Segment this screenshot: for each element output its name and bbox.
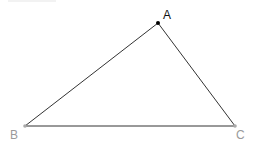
point-b[interactable] (23, 124, 27, 128)
label-c: C (236, 128, 245, 142)
edge-ac (158, 23, 235, 126)
edge-ab (25, 23, 158, 126)
label-a: A (163, 8, 171, 22)
triangle-diagram: A B C (0, 0, 256, 156)
point-a[interactable] (156, 21, 160, 25)
label-b: B (10, 128, 18, 142)
